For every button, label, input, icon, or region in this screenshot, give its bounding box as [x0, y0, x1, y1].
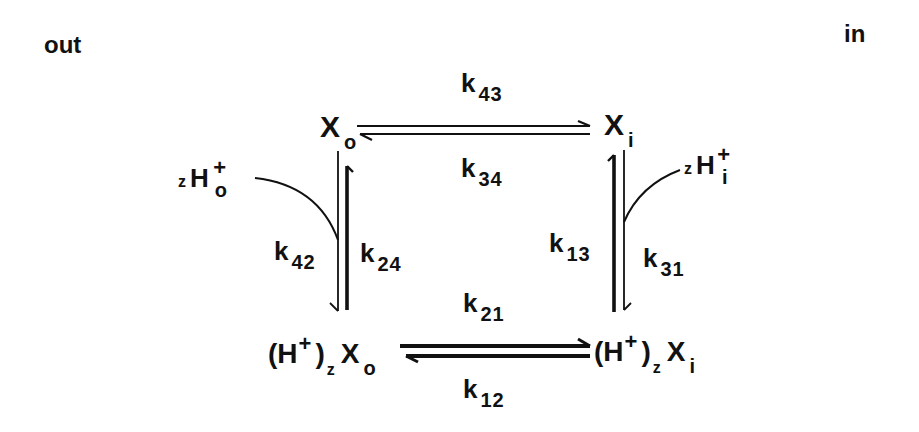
rate-symbol: k [274, 236, 288, 266]
arrow-hxi-to-hxo [406, 356, 590, 362]
rate-symbol: k [463, 374, 477, 404]
rate-symbol: k [549, 228, 563, 258]
species-sup: + [299, 331, 312, 356]
species-x-in: Xi [604, 110, 634, 140]
rate-k43: k43 [461, 70, 503, 96]
ion-sub: i [717, 167, 733, 187]
species-open: (H [594, 336, 624, 367]
species-main: X [604, 108, 624, 141]
rate-k13: k13 [549, 230, 591, 256]
ion-coef: z [684, 160, 692, 177]
ion-main: H [696, 150, 715, 180]
rate-index: 42 [291, 251, 315, 273]
species-sub: i [689, 355, 695, 377]
rate-symbol: k [461, 153, 475, 183]
rate-k24: k24 [360, 240, 402, 266]
species-main: X [667, 336, 686, 367]
species-close: ) [315, 338, 324, 369]
species-close: ) [641, 336, 650, 367]
species-zsub: z [327, 361, 335, 378]
rate-index: 21 [480, 303, 504, 325]
rate-symbol: k [463, 288, 477, 318]
arrow-hxo-to-xo [347, 166, 353, 310]
species-sub: o [363, 357, 375, 379]
rate-symbol: k [360, 238, 374, 268]
species-protonated-x-out: (H+)zXo [268, 340, 376, 368]
species-sup: + [625, 329, 638, 354]
rate-k42: k42 [274, 238, 316, 264]
proton-out-label: zH+o [178, 165, 229, 191]
proton-out-curve [255, 178, 338, 240]
species-x-out: Xo [320, 112, 356, 142]
proton-in-label: zH+i [684, 152, 733, 178]
ion-coef: z [178, 173, 186, 190]
rate-index: 43 [478, 83, 502, 105]
rate-index: 31 [660, 258, 684, 280]
rate-symbol: k [461, 68, 475, 98]
proton-in-curve [624, 170, 680, 222]
species-open: (H [268, 338, 298, 369]
arrow-hxi-to-xi [608, 155, 614, 312]
species-sub: o [344, 131, 356, 153]
rate-index: 34 [478, 168, 502, 190]
compartment-label-in: in [844, 22, 865, 46]
ion-sup: + [211, 157, 229, 179]
rate-k12: k12 [463, 376, 505, 402]
arrow-xo-to-xi [357, 121, 590, 126]
ion-main: H [190, 163, 209, 193]
species-protonated-x-in: (H+)zXi [594, 338, 695, 366]
rate-index: 12 [480, 389, 504, 411]
rate-k21: k21 [463, 290, 505, 316]
ion-sub: o [213, 180, 229, 200]
compartment-label-out: out [44, 33, 81, 57]
rate-symbol: k [643, 243, 657, 273]
rate-index: 13 [566, 243, 590, 265]
rate-k31: k31 [643, 245, 685, 271]
arrow-hxo-to-hxi [400, 339, 590, 346]
species-sub: i [628, 129, 634, 151]
rate-index: 24 [377, 253, 401, 275]
species-main: X [341, 338, 360, 369]
rate-k34: k34 [461, 155, 503, 181]
ion-sup: + [715, 144, 733, 166]
species-main: X [320, 110, 340, 143]
arrows-layer [0, 0, 919, 432]
arrow-xi-to-hxi [624, 150, 631, 310]
arrow-xi-to-xo [360, 134, 590, 140]
species-zsub: z [653, 359, 661, 376]
